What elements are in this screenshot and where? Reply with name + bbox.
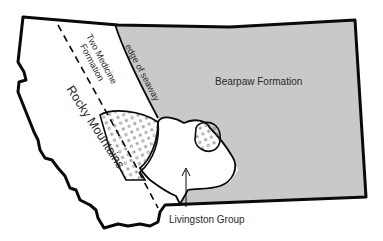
bearpaw-formation-label: Bearpaw Formation [215, 76, 302, 87]
stippled-area-small [195, 122, 220, 151]
livingston-group-label: Livingston Group [169, 214, 245, 225]
montana-geology-map: Bearpaw Formation Two Medicine Formation… [0, 0, 383, 241]
